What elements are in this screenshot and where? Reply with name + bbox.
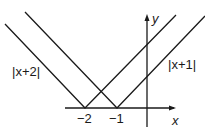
tick-label-minus-2: −2 — [77, 112, 92, 125]
x-axis-label: x — [172, 114, 179, 127]
y-axis-label: y — [152, 12, 159, 25]
tick-label-minus-1: −1 — [109, 112, 124, 125]
curve-label-abs-x-plus-2: |x+2| — [12, 65, 40, 78]
y-axis-arrow-icon — [145, 14, 150, 21]
curve-label-abs-x-plus-1: |x+1| — [168, 58, 196, 71]
x-axis-arrow-icon — [169, 106, 176, 111]
curve-abs-x-plus-2 — [5, 15, 176, 108]
abs-value-graph: |x+2| |x+1| −2 −1 x y — [0, 0, 205, 134]
